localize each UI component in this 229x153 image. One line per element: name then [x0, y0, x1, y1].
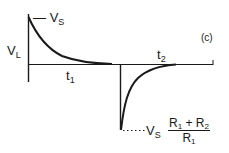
y-axis-label: VL: [7, 44, 21, 57]
fraction-denominator: R1: [182, 131, 195, 144]
panel-label: (c): [201, 33, 213, 43]
negative-peak-prefix: VS: [146, 124, 161, 137]
peak-label-dash: —: [33, 10, 46, 25]
interval-t1-label: t1: [66, 69, 75, 82]
interval-t2-label: t2: [157, 48, 166, 61]
resistor-ratio-fraction: R1 + R2 R1: [168, 117, 210, 144]
fraction-numerator: R1 + R2: [168, 117, 210, 131]
peak-voltage-label: — VS: [33, 11, 64, 24]
